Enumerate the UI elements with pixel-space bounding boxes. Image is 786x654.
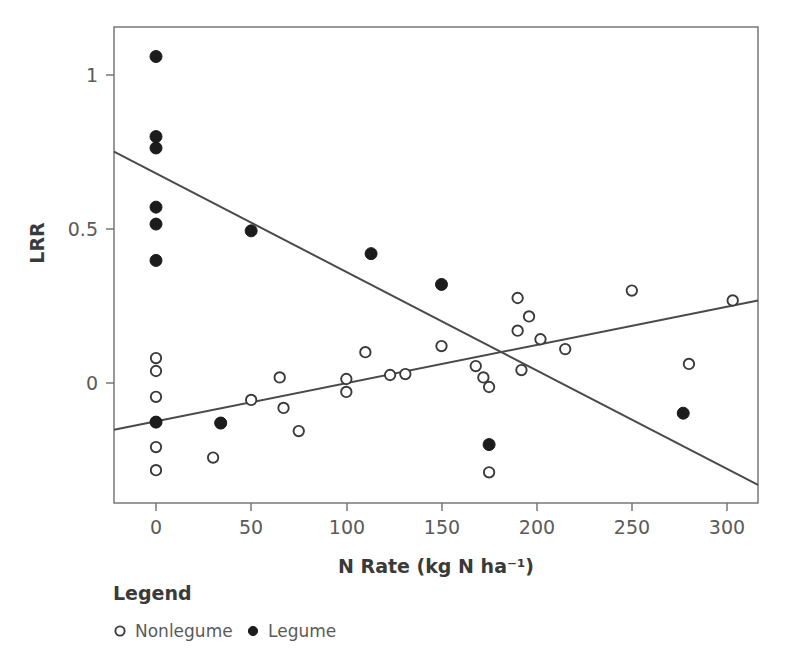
data-point-nonlegume <box>400 369 410 379</box>
chart-figure: 1 0.5 0 LRR 0 50 100 150 200 250 300 N <box>0 0 786 654</box>
y-axis-tick-labels: 1 0.5 0 <box>68 64 98 394</box>
series-nonlegume-points <box>151 285 738 477</box>
data-point-nonlegume <box>246 395 256 405</box>
data-point-nonlegume <box>278 403 288 413</box>
x-axis-tick-labels: 0 50 100 150 200 250 300 <box>150 516 745 538</box>
data-point-nonlegume <box>436 341 446 351</box>
x-tick-label-50: 50 <box>239 516 263 538</box>
x-tick-label-150: 150 <box>424 516 460 538</box>
data-point-nonlegume <box>484 467 494 477</box>
regression-line-nonlegume <box>114 300 758 429</box>
data-point-nonlegume <box>360 347 370 357</box>
legend: Legend Nonlegume Legume <box>113 582 336 641</box>
regression-line-legume <box>114 152 758 485</box>
y-axis-title: LRR <box>26 222 48 264</box>
data-point-nonlegume <box>560 344 570 354</box>
legend-marker-legume-icon <box>248 626 257 635</box>
legend-title: Legend <box>113 582 192 604</box>
data-point-legume <box>150 131 162 143</box>
data-point-nonlegume <box>275 372 285 382</box>
y-tick-label-1: 1 <box>86 64 98 86</box>
plot-frame <box>114 27 758 503</box>
data-point-nonlegume <box>151 442 161 452</box>
data-point-nonlegume <box>684 359 694 369</box>
data-point-nonlegume <box>484 382 494 392</box>
data-point-nonlegume <box>341 374 351 384</box>
x-axis-ticks <box>156 503 727 511</box>
data-point-nonlegume <box>535 334 545 344</box>
data-point-nonlegume <box>151 392 161 402</box>
data-point-legume <box>150 142 162 154</box>
data-point-legume <box>150 254 162 266</box>
x-axis-title-main: N Rate (kg N ha⁻¹) <box>338 555 534 577</box>
scatter-plot: 1 0.5 0 LRR 0 50 100 150 200 250 300 N <box>0 0 786 654</box>
legend-marker-nonlegume-icon <box>115 626 124 635</box>
data-point-legume <box>436 278 448 290</box>
x-tick-label-200: 200 <box>519 516 555 538</box>
data-point-nonlegume <box>208 452 218 462</box>
data-point-nonlegume <box>516 365 526 375</box>
data-point-legume <box>150 218 162 230</box>
data-point-nonlegume <box>385 370 395 380</box>
legend-label-nonlegume: Nonlegume <box>135 621 233 641</box>
data-point-legume <box>215 417 227 429</box>
data-point-nonlegume <box>341 387 351 397</box>
data-point-legume <box>245 225 257 237</box>
data-point-nonlegume <box>151 366 161 376</box>
y-tick-label-0: 0 <box>86 372 98 394</box>
data-point-nonlegume <box>294 426 304 436</box>
x-tick-label-250: 250 <box>614 516 650 538</box>
legend-label-legume: Legume <box>268 621 336 641</box>
data-point-nonlegume <box>151 465 161 475</box>
x-axis-title: N Rate (kg N ha⁻¹) <box>338 555 534 577</box>
data-point-nonlegume <box>478 372 488 382</box>
data-point-legume <box>677 407 689 419</box>
data-point-legume <box>150 201 162 213</box>
data-point-nonlegume <box>524 311 534 321</box>
data-point-nonlegume <box>471 361 481 371</box>
y-tick-label-0-5: 0.5 <box>68 218 98 240</box>
data-point-nonlegume <box>512 325 522 335</box>
regression-lines <box>114 152 758 485</box>
x-tick-label-0: 0 <box>150 516 162 538</box>
data-point-legume <box>483 439 495 451</box>
data-point-nonlegume <box>151 353 161 363</box>
data-point-legume <box>150 416 162 428</box>
x-tick-label-300: 300 <box>709 516 745 538</box>
series-legume-points <box>150 51 689 451</box>
data-point-legume <box>150 51 162 63</box>
data-point-nonlegume <box>728 295 738 305</box>
x-tick-label-100: 100 <box>329 516 365 538</box>
data-point-nonlegume <box>512 293 522 303</box>
y-axis-ticks <box>106 75 114 383</box>
data-point-nonlegume <box>627 285 637 295</box>
data-point-legume <box>365 248 377 260</box>
